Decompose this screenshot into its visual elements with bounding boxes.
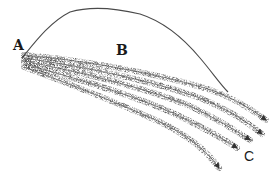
- label-c: C: [244, 149, 254, 163]
- flow-bands: [24, 55, 266, 168]
- diagram-canvas: [0, 0, 278, 180]
- label-b: B: [116, 43, 128, 57]
- label-a: A: [13, 38, 24, 52]
